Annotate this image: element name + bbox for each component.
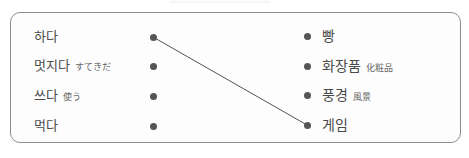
left-item-3: 쓰다使う: [34, 88, 81, 105]
japanese-gloss: 風景: [353, 92, 371, 102]
right-dot-3[interactable]: [304, 92, 311, 99]
connection-line-hada-game: [0, 0, 469, 158]
right-word: 빵: [322, 28, 335, 44]
right-word: 게임: [322, 117, 348, 133]
right-dot-2[interactable]: [304, 63, 311, 70]
left-dot-4[interactable]: [150, 123, 157, 130]
left-word: 쓰다: [34, 88, 58, 103]
left-word: 하다: [34, 29, 58, 44]
left-item-2: 멋지다すてきだ: [34, 58, 111, 75]
left-item-1: 하다: [34, 29, 58, 45]
left-dot-1[interactable]: [150, 34, 157, 41]
japanese-gloss: すてきだ: [75, 62, 111, 72]
right-item-1: 빵: [322, 28, 335, 45]
right-word: 풍경: [322, 87, 348, 103]
left-item-4: 먹다: [34, 118, 58, 134]
left-dot-3[interactable]: [150, 93, 157, 100]
right-word: 화장품: [322, 58, 361, 74]
right-dot-1[interactable]: [304, 33, 311, 40]
left-word: 먹다: [34, 118, 58, 133]
right-item-3: 풍경風景: [322, 87, 371, 105]
right-dot-4[interactable]: [304, 122, 311, 129]
right-item-2: 화장품化粧品: [322, 58, 393, 76]
japanese-gloss: 使う: [63, 92, 81, 102]
japanese-gloss: 化粧品: [366, 63, 393, 73]
left-dot-2[interactable]: [150, 63, 157, 70]
right-item-4: 게임: [322, 117, 348, 134]
left-word: 멋지다: [34, 58, 70, 73]
